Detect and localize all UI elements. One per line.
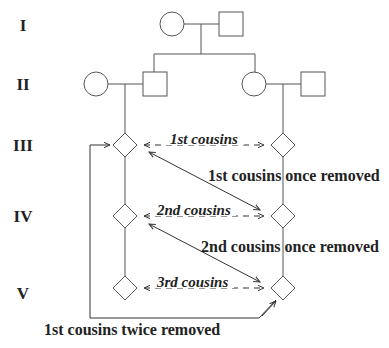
first-cousins-twice-removed-label: 1st cousins twice removed: [44, 321, 220, 338]
pedigree-diagram: I II III IV V 1st cousin: [0, 0, 389, 348]
second-cousins-once-removed-label: 2nd cousins once removed: [201, 238, 379, 255]
diamond-v-left: [113, 276, 137, 300]
generation-label-ii: II: [16, 75, 30, 94]
male-symbol: [143, 72, 167, 96]
generation-label-v: V: [17, 284, 30, 303]
male-symbol: [219, 12, 243, 36]
diamond-v-right: [271, 276, 295, 300]
first-cousins-once-removed-label: 1st cousins once removed: [208, 167, 380, 184]
generation-ii-right-couple: [242, 72, 325, 133]
diamond-iv-left: [113, 204, 137, 228]
first-cousins-twice-removed-arrow-right: [262, 301, 276, 316]
male-symbol: [301, 72, 325, 96]
generation-label-iii: III: [13, 136, 33, 155]
female-symbol: [160, 12, 184, 36]
second-cousins-label: 2nd cousins: [156, 202, 231, 218]
diamond-iii-left: [113, 133, 137, 157]
generation-i-couple: [154, 12, 255, 72]
first-cousins-label: 1st cousins: [170, 131, 238, 147]
diamond-iii-right: [271, 133, 295, 157]
third-cousins-label: 3rd cousins: [156, 274, 228, 290]
female-symbol: [242, 72, 266, 96]
female-symbol: [84, 72, 108, 96]
generation-label-i: I: [20, 16, 27, 35]
generation-ii-left-couple: [84, 72, 167, 133]
generation-label-iv: IV: [14, 207, 34, 226]
diamond-iv-right: [271, 204, 295, 228]
